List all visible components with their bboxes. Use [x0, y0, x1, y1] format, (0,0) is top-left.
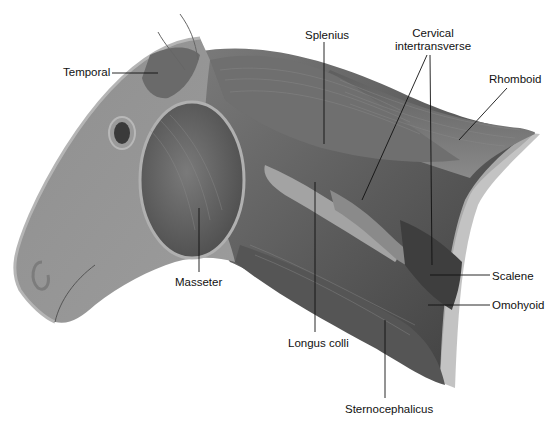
label-splenius: Splenius	[305, 29, 349, 42]
label-sternocephalicus: Sternocephalicus	[345, 403, 433, 416]
label-cervical-line2: intertransverse	[393, 40, 473, 53]
label-temporal: Temporal	[63, 66, 110, 79]
masseter-muscle	[140, 102, 244, 258]
label-cervical-intertransverse: Cervical intertransverse	[393, 27, 473, 53]
label-scalene: Scalene	[492, 270, 534, 283]
label-omohyoid: Omohyoid	[492, 299, 544, 312]
label-longus-colli: Longus colli	[288, 337, 349, 350]
label-cervical-line1: Cervical	[393, 27, 473, 40]
eye-pupil	[114, 122, 130, 144]
label-masseter: Masseter	[175, 276, 222, 289]
label-rhomboid: Rhomboid	[489, 73, 541, 86]
